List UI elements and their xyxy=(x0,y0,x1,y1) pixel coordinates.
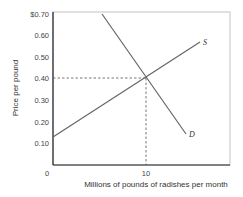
x-axis-label: Millions of pounds of radishes per month xyxy=(84,180,228,189)
demand-curve xyxy=(102,14,186,134)
y-tick-label: 0.40 xyxy=(34,74,49,83)
y-tick-label: 0.20 xyxy=(34,118,49,127)
y-tick-label: 0.50 xyxy=(34,53,49,62)
y-tick-label: 0.10 xyxy=(34,139,49,148)
x-tick-label: 10 xyxy=(142,169,150,178)
supply-demand-chart: $0.70 0.60 0.50 0.40 0.30 0.20 0.10 0 10… xyxy=(0,0,243,197)
y-tick-label: 0.30 xyxy=(34,96,49,105)
x-tick-label: 0 xyxy=(45,169,49,178)
y-tick-label: $0.70 xyxy=(30,10,49,19)
y-axis-label: Price per pound xyxy=(11,60,20,116)
demand-label: D xyxy=(188,130,195,139)
y-tick-label: 0.60 xyxy=(34,31,49,40)
supply-label: S xyxy=(203,38,207,47)
plot-frame xyxy=(53,12,230,165)
